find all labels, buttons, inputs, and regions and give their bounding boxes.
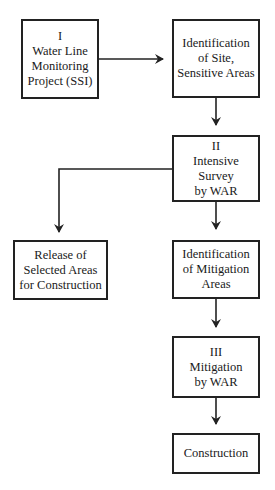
node-label-line: Mitigation: [190, 360, 243, 375]
arrow-n3-to-n4: [59, 169, 172, 232]
node-identification-of-site: Identification of Site, Sensitive Areas: [172, 19, 260, 98]
node-label-line: III: [210, 345, 223, 360]
node-label-line: Project (SSI): [28, 74, 93, 89]
node-label-line: Water Line: [32, 44, 88, 59]
node-label-line: Intensive: [193, 154, 239, 169]
node-water-line-monitoring: I Water Line Monitoring Project (SSI): [21, 19, 99, 99]
node-mitigation-by-war: III Mitigation by WAR: [172, 336, 260, 398]
node-label-line: I: [58, 29, 62, 44]
node-intensive-survey: II Intensive Survey by WAR: [172, 135, 260, 202]
node-label-line: of Site,: [198, 51, 234, 66]
node-label-line: Identification: [182, 36, 249, 51]
node-label-line: Release of: [34, 248, 86, 263]
node-label-line: by WAR: [194, 375, 237, 390]
node-identification-of-mitigation: Identification of Mitigation Areas: [172, 240, 260, 299]
node-label-line: for Construction: [19, 278, 101, 293]
node-release-selected-areas: Release of Selected Areas for Constructi…: [13, 240, 108, 300]
node-label-line: Identification: [182, 247, 249, 262]
node-label-line: Monitoring: [32, 59, 89, 74]
node-label-line: Survey: [198, 169, 233, 184]
node-label-line: Construction: [184, 446, 249, 461]
node-label-line: Areas: [201, 277, 230, 292]
node-label-line: of Mitigation: [183, 262, 249, 277]
node-label-line: II: [212, 139, 220, 154]
node-label-line: Selected Areas: [24, 263, 98, 278]
node-label-line: by WAR: [194, 184, 237, 199]
node-label-line: Sensitive Areas: [177, 66, 254, 81]
node-construction: Construction: [172, 433, 260, 474]
